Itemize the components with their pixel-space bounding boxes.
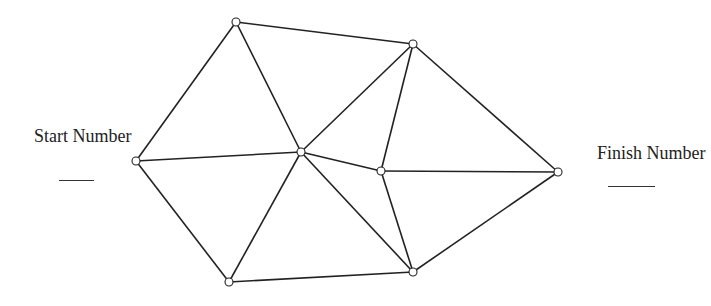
edge-D-H — [381, 171, 413, 272]
edge-C-H — [301, 152, 413, 272]
edge-G-H — [229, 272, 413, 282]
graph-edges — [136, 22, 558, 282]
edge-B-D — [381, 44, 413, 171]
edge-C-G — [229, 152, 301, 282]
node-C — [297, 148, 305, 156]
edge-C-B — [301, 44, 413, 152]
graph-nodes — [132, 18, 562, 286]
edge-C-D — [301, 152, 381, 171]
node-D — [377, 167, 385, 175]
node-S — [132, 157, 140, 165]
edge-D-F — [381, 171, 558, 172]
edge-A-C — [236, 22, 301, 152]
edge-A-B — [236, 22, 413, 44]
node-F — [554, 168, 562, 176]
node-B — [409, 40, 417, 48]
finish-number-label: Finish Number — [597, 143, 706, 164]
edge-B-F — [413, 44, 558, 172]
edge-S-G — [136, 161, 229, 282]
node-A — [232, 18, 240, 26]
start-number-blank — [59, 180, 94, 181]
edge-H-F — [413, 172, 558, 272]
finish-number-blank — [608, 186, 655, 187]
node-G — [225, 278, 233, 286]
edge-S-A — [136, 22, 236, 161]
start-number-label: Start Number — [34, 126, 131, 147]
edge-S-C — [136, 152, 301, 161]
node-H — [409, 268, 417, 276]
